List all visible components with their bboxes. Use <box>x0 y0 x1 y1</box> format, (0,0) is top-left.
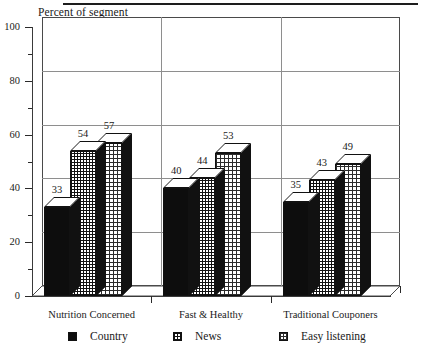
x-axis-category-label: Fast & Healthy <box>179 309 243 320</box>
bar-front-face <box>163 188 189 296</box>
gridline <box>42 71 400 72</box>
y-axis-tick-label: 80 <box>0 75 20 86</box>
bar: 40 <box>163 188 189 296</box>
y-axis-tick-label: 0 <box>0 290 20 301</box>
group-separator-line <box>161 17 162 286</box>
bar: 33 <box>44 207 70 296</box>
bar-chart: Percent of segment 335457404453354349 02… <box>0 0 422 360</box>
bar: 35 <box>283 202 309 296</box>
plot-area: 335457404453354349 <box>32 27 390 296</box>
x-tick <box>400 286 401 293</box>
bar-side-face <box>96 141 106 296</box>
bar-side-face <box>309 192 319 296</box>
legend-item[interactable]: Country <box>68 330 128 342</box>
bar-value-label: 35 <box>290 179 301 190</box>
bar-side-face <box>189 178 199 296</box>
x-axis-line <box>32 296 391 297</box>
legend-swatch-icon <box>279 332 288 341</box>
y-tick-major <box>25 81 32 82</box>
gridline <box>42 125 400 126</box>
y-axis-tick-label: 60 <box>0 129 20 140</box>
legend-label: News <box>195 330 221 342</box>
bar-side-face <box>241 143 251 296</box>
bar-side-face <box>70 197 80 296</box>
bar-value-label: 44 <box>197 155 208 166</box>
group-separator-line <box>281 17 282 286</box>
y-axis-line <box>32 27 33 297</box>
legend-swatch-icon <box>68 332 77 341</box>
bar-value-label: 33 <box>52 184 63 195</box>
y-tick-major <box>25 27 32 28</box>
y-tick-minor <box>28 162 32 163</box>
x-tick <box>151 296 152 303</box>
legend-label: Country <box>90 330 128 342</box>
bar-value-label: 43 <box>316 157 327 168</box>
y-tick-major <box>25 135 32 136</box>
legend-item[interactable]: News <box>173 330 221 342</box>
y-tick-major <box>25 296 32 297</box>
y-axis-tick-label: 40 <box>0 182 20 193</box>
bar-value-label: 40 <box>171 165 182 176</box>
bar-value-label: 53 <box>223 130 234 141</box>
y-tick-minor <box>28 108 32 109</box>
y-tick-minor <box>28 269 32 270</box>
x-axis-category-label: Traditional Couponers <box>283 309 377 320</box>
bar-side-face <box>122 133 132 296</box>
bar-value-label: 49 <box>342 141 353 152</box>
bar-front-face <box>44 207 70 296</box>
y-tick-major <box>25 242 32 243</box>
x-axis-category-label: Nutrition Concerned <box>48 309 135 320</box>
bar-side-face <box>215 168 225 296</box>
bar-side-face <box>361 154 371 296</box>
legend-label: Easy listening <box>301 330 366 342</box>
y-tick-major <box>25 188 32 189</box>
bar-value-label: 54 <box>78 128 89 139</box>
y-tick-minor <box>28 54 32 55</box>
bar-side-face <box>335 170 345 296</box>
bar-value-label: 57 <box>104 120 115 131</box>
chart-legend: CountryNewsEasy listening <box>0 330 422 356</box>
y-tick-minor <box>28 215 32 216</box>
legend-swatch-icon <box>173 332 182 341</box>
y-axis-tick-label: 20 <box>0 236 20 247</box>
bar-front-face <box>283 202 309 296</box>
y-axis-tick-label: 100 <box>0 21 20 32</box>
legend-item[interactable]: Easy listening <box>279 330 366 342</box>
x-tick <box>271 296 272 303</box>
